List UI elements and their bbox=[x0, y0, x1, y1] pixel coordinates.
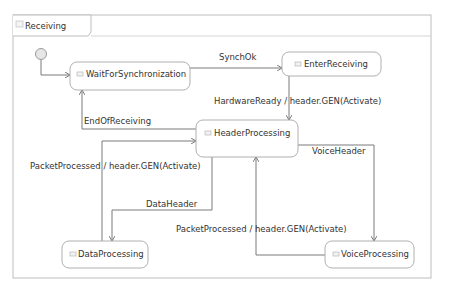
state-icon bbox=[70, 252, 76, 256]
state-icon bbox=[77, 72, 83, 76]
label-packetprocessed-voice: PacketProcessed / header.GEN(Activate) bbox=[176, 224, 347, 234]
state-voiceprocessing[interactable]: VoiceProcessing bbox=[325, 241, 414, 268]
composite-state-title: Receiving bbox=[25, 21, 66, 31]
label-synchok: SynchOk bbox=[219, 52, 257, 62]
statechart-canvas: Receiving SynchOk HardwareReady / header… bbox=[0, 0, 449, 293]
svg-text:VoiceProcessing: VoiceProcessing bbox=[341, 249, 409, 259]
svg-text:WaitForSynchronization: WaitForSynchronization bbox=[86, 69, 186, 79]
state-enterreceiving[interactable]: EnterReceiving bbox=[282, 52, 381, 76]
svg-text:EnterReceiving: EnterReceiving bbox=[304, 59, 368, 69]
svg-text:DataProcessing: DataProcessing bbox=[78, 249, 144, 259]
label-packetprocessed-data: PacketProcessed / header.GEN(Activate) bbox=[30, 161, 201, 171]
state-waitforsynchronization[interactable]: WaitForSynchronization bbox=[70, 62, 190, 90]
svg-text:HeaderProcessing: HeaderProcessing bbox=[214, 128, 290, 138]
state-headerprocessing[interactable]: HeaderProcessing bbox=[196, 120, 298, 157]
state-icon bbox=[16, 21, 23, 27]
initial-state[interactable] bbox=[36, 49, 47, 60]
label-voiceheader: VoiceHeader bbox=[312, 146, 366, 156]
state-icon bbox=[295, 62, 301, 66]
label-endofreceiving: EndOfReceiving bbox=[84, 116, 151, 126]
state-icon bbox=[333, 252, 339, 256]
state-dataprocessing[interactable]: DataProcessing bbox=[62, 241, 148, 268]
label-dataheader: DataHeader bbox=[146, 199, 198, 209]
state-icon bbox=[205, 131, 211, 135]
label-hardwareready: HardwareReady / header.GEN(Activate) bbox=[214, 96, 381, 106]
